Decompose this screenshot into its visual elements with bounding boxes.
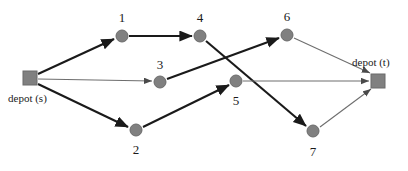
edge-s-to-3 [38,79,152,81]
graph-node-7[interactable] [307,125,319,137]
edge-s-to-1 [38,39,114,74]
edge-3-to-6 [167,38,279,79]
edges-layer [38,36,371,127]
graph-node-6[interactable] [281,29,293,41]
node-label-1: 1 [112,11,132,24]
node-label-6: 6 [277,10,297,23]
graph-node-1[interactable] [116,30,128,42]
node-label-3: 3 [150,58,170,71]
depot-label-t: depot (t) [352,57,390,68]
graph-svg [0,0,408,171]
depot-label-s: depot (s) [8,93,47,104]
node-label-7: 7 [303,145,323,158]
node-label-5: 5 [226,94,246,107]
edge-2-to-5 [143,85,229,127]
network-diagram-canvas: depot (s)depot (t)1234567 [0,0,408,171]
edge-7-to-t [320,89,371,127]
edge-s-to-2 [38,84,128,127]
edge-4-to-7 [206,41,306,126]
graph-node-3[interactable] [154,76,166,88]
graph-node-4[interactable] [194,30,206,42]
depot-node-s[interactable] [23,71,37,85]
depot-node-t[interactable] [371,74,385,88]
nodes-layer [23,29,385,137]
graph-node-2[interactable] [130,124,142,136]
node-label-4: 4 [190,11,210,24]
graph-node-5[interactable] [230,75,242,87]
node-label-2: 2 [126,143,146,156]
